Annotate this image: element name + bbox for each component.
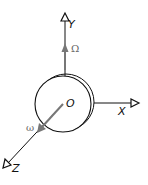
z-axis-label: Z xyxy=(11,162,20,175)
omega-label: Ω xyxy=(71,43,79,54)
omega-vector-arrowhead-icon xyxy=(62,43,69,52)
spin-rate-label: ω xyxy=(26,122,34,133)
x-axis-label: X xyxy=(117,105,126,118)
disc-diagram: Y Ω O X ω Z xyxy=(0,0,148,185)
origin-label: O xyxy=(66,97,75,110)
x-axis-arrowhead-icon xyxy=(131,99,139,107)
y-axis-label: Y xyxy=(68,18,76,31)
